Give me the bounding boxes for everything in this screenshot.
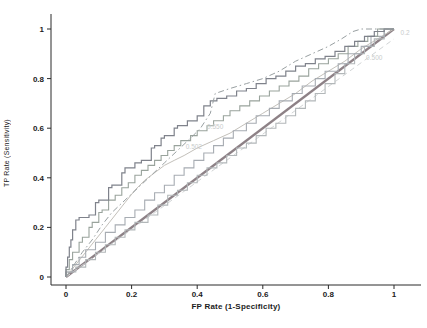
threshold-annotation: 0.2 xyxy=(401,29,410,36)
x-tick-label: 0.2 xyxy=(126,290,138,299)
roc-chart-canvas: 00.20.40.60.8100.20.40.60.810.20.5000.55… xyxy=(0,0,427,328)
x-axis-title: FP Rate (1-Specificity) xyxy=(51,302,421,311)
y-tick-label: 0.4 xyxy=(33,174,45,183)
threshold-annotation: 0.550 xyxy=(207,123,224,130)
threshold-annotation: 0.502 xyxy=(186,143,203,150)
x-tick-label: 0.4 xyxy=(192,290,204,299)
y-tick-label: 1 xyxy=(40,25,45,34)
y-tick-label: 0 xyxy=(40,273,45,282)
x-tick-label: 0 xyxy=(64,290,69,299)
x-tick-label: 0.8 xyxy=(323,290,335,299)
y-tick-label: 0.8 xyxy=(33,75,45,84)
threshold-annotation: 0.500 xyxy=(366,54,383,61)
x-tick-label: 0.6 xyxy=(257,290,269,299)
y-tick-label: 0.2 xyxy=(33,223,45,232)
roc-chart-figure: 00.20.40.60.8100.20.40.60.810.20.5000.55… xyxy=(0,0,427,328)
y-tick-label: 0.6 xyxy=(33,124,45,133)
x-tick-label: 1 xyxy=(392,290,397,299)
y-axis-title: TP Rate (Sensitivity) xyxy=(3,88,10,218)
